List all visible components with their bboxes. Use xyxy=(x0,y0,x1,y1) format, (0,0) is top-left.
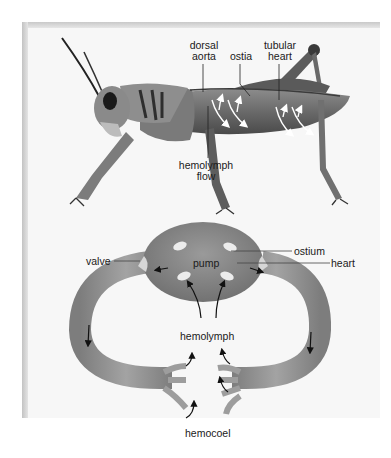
grasshopper-illustration xyxy=(62,38,350,214)
open-circulation-schematic xyxy=(80,222,330,418)
eye-icon xyxy=(103,92,117,110)
label-ostium: ostium xyxy=(294,246,325,257)
label-line: aorta xyxy=(186,51,222,62)
label-line: heart xyxy=(262,51,298,62)
label-tubular-heart: tubular heart xyxy=(262,40,298,62)
abdomen xyxy=(185,89,350,134)
label-ostia: ostia xyxy=(228,51,254,62)
label-pump: pump xyxy=(193,258,219,269)
label-valve: valve xyxy=(86,256,111,267)
antenna-icon xyxy=(62,38,100,98)
label-line: flow xyxy=(178,171,234,182)
label-hemolymph: hemolymph xyxy=(180,331,234,342)
label-hemocoel: hemocoel xyxy=(185,428,231,439)
label-heart: heart xyxy=(331,258,355,269)
diagram-art xyxy=(0,0,391,458)
label-hemolymph-flow: hemolymph flow xyxy=(178,160,234,182)
label-line: ostia xyxy=(228,51,254,62)
label-dorsal-aorta: dorsal aorta xyxy=(186,40,222,62)
